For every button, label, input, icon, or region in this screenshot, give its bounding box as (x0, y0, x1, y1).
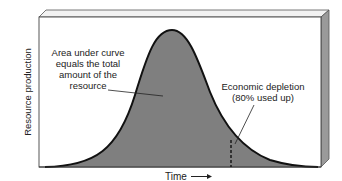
y-axis-label: Resource production (22, 48, 33, 136)
depletion-text-line-1: Economic depletion (222, 81, 305, 92)
panel-side-face (321, 10, 329, 167)
hubbert-curve-figure: Area under curve equals the total amount… (0, 0, 342, 181)
area-text-line-2: equals the total (56, 58, 120, 69)
area-text-line-1: Area under curve (52, 47, 125, 58)
x-axis-label: Time (165, 171, 187, 181)
area-text-line-3: amount of the (59, 69, 117, 80)
area-text-line-4: resource (70, 80, 107, 91)
panel-top-face (39, 10, 329, 17)
right-arrow-icon (191, 174, 212, 179)
depletion-annotation: Economic depletion (80% used up) (222, 81, 305, 103)
depletion-text-line-2: (80% used up) (232, 92, 294, 103)
